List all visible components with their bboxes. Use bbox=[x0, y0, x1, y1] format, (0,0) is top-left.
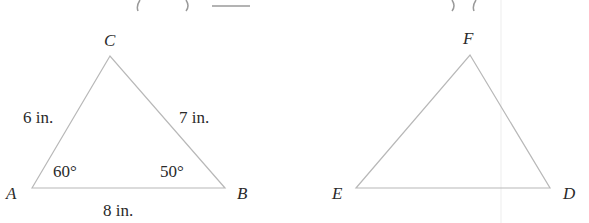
triangle-def-shape bbox=[356, 55, 550, 188]
vertex-e-label: E bbox=[331, 184, 343, 203]
angle-a-measure: 60° bbox=[53, 162, 77, 181]
cropped-paren-right-2 bbox=[452, 0, 454, 11]
vertex-a-label: A bbox=[5, 184, 17, 203]
vertex-b-label: B bbox=[237, 184, 248, 203]
vertex-d-label: D bbox=[562, 184, 576, 203]
cropped-paren-left-2 bbox=[473, 0, 476, 11]
triangle-def: F E D bbox=[331, 29, 576, 203]
side-ac-length: 6 in. bbox=[23, 108, 53, 127]
figure-canvas: C A B 6 in. 7 in. 8 in. 60° 50° F E D bbox=[0, 0, 589, 223]
vertex-c-label: C bbox=[104, 31, 116, 50]
side-ab-length: 8 in. bbox=[103, 201, 133, 220]
vertex-f-label: F bbox=[462, 29, 474, 48]
side-cb-length: 7 in. bbox=[179, 108, 209, 127]
triangle-abc: C A B 6 in. 7 in. 8 in. 60° 50° bbox=[5, 31, 248, 220]
cropped-paren-right bbox=[186, 0, 188, 11]
cropped-paren-left bbox=[137, 0, 140, 11]
angle-b-measure: 50° bbox=[160, 162, 184, 181]
